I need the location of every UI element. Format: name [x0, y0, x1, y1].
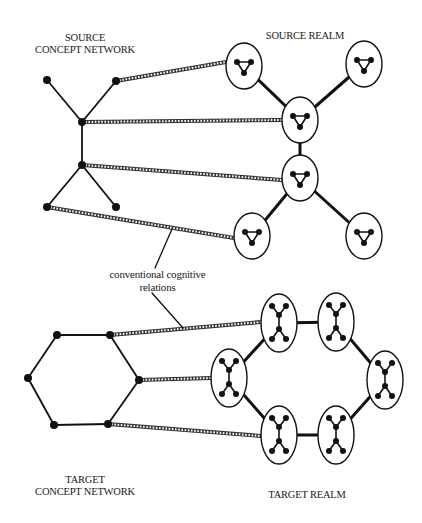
target-realm-label: TARGET REALM — [262, 489, 352, 501]
cluster-node — [354, 229, 360, 235]
cluster-node — [333, 311, 339, 317]
cognitive-relation-link — [116, 62, 226, 81]
cluster-node — [219, 391, 225, 397]
concept-node — [78, 118, 86, 126]
network-edge — [82, 81, 116, 122]
cluster-node — [290, 171, 296, 177]
cluster-node — [333, 424, 339, 430]
source-network-label-line1: SOURCE — [30, 32, 140, 44]
concept-node — [43, 76, 51, 84]
cluster-node — [326, 415, 332, 421]
entity-ellipse — [282, 97, 318, 143]
entity-ellipse — [226, 43, 262, 89]
cluster-node — [375, 360, 381, 366]
target-realm-graph — [211, 293, 403, 464]
cluster-node — [326, 335, 332, 341]
target-realm-label-text: TARGET REALM — [262, 489, 352, 501]
realm-entity — [211, 349, 247, 407]
cluster-node — [382, 383, 388, 389]
cluster-node — [219, 358, 225, 364]
cluster-node — [326, 302, 332, 308]
cluster-node — [297, 182, 303, 188]
source-concept-network — [43, 76, 120, 211]
cluster-node — [226, 367, 232, 373]
cluster-node — [276, 424, 282, 430]
source-network-label-line2: CONCEPT NETWORK — [30, 44, 140, 56]
cluster-node — [304, 171, 310, 177]
entity-ellipse — [234, 213, 270, 259]
cognitive-relation-link — [82, 165, 282, 180]
concept-node — [43, 203, 51, 211]
cluster-node — [242, 229, 248, 235]
cluster-node — [354, 57, 360, 63]
network-edge — [54, 424, 108, 425]
cluster-node — [290, 113, 296, 119]
realm-entity — [226, 43, 262, 89]
cluster-node — [375, 393, 381, 399]
cluster-node — [340, 448, 346, 454]
cluster-node — [361, 68, 367, 74]
cluster-node — [368, 57, 374, 63]
network-edge — [110, 335, 139, 380]
cluster-node — [269, 303, 275, 309]
cluster-node — [234, 59, 240, 65]
network-edge — [108, 380, 139, 424]
cluster-node — [283, 336, 289, 342]
entity-ellipse — [346, 213, 382, 259]
entity-ellipse — [282, 155, 318, 201]
diagram-canvas: SOURCE CONCEPT NETWORK SOURCE REALM conv… — [0, 0, 422, 523]
cluster-node — [283, 448, 289, 454]
cluster-node — [233, 358, 239, 364]
cluster-node — [297, 124, 303, 130]
realm-entity — [318, 406, 354, 464]
cognitive-relation-link — [82, 120, 282, 122]
realm-entity — [282, 155, 318, 201]
concept-node — [104, 420, 112, 428]
cluster-node — [233, 391, 239, 397]
concept-node — [78, 161, 86, 169]
realm-entity — [261, 406, 297, 464]
network-edge — [47, 165, 82, 207]
cluster-node — [269, 336, 275, 342]
cluster-node — [333, 325, 339, 331]
realm-entity — [261, 294, 297, 352]
cognitive-relation-link — [110, 322, 261, 335]
cluster-node — [340, 302, 346, 308]
cluster-node — [241, 70, 247, 76]
cluster-node — [249, 240, 255, 246]
realm-entity — [234, 213, 270, 259]
source-concept-network-label: SOURCE CONCEPT NETWORK — [30, 32, 140, 56]
cluster-node — [226, 381, 232, 387]
cluster-node — [361, 240, 367, 246]
diagram-svg — [0, 0, 422, 523]
cluster-node — [276, 326, 282, 332]
leader-line — [155, 229, 172, 268]
source-realm-graph — [226, 41, 382, 259]
cluster-node — [276, 312, 282, 318]
cluster-node — [368, 229, 374, 235]
cluster-node — [389, 393, 395, 399]
concept-node — [112, 77, 120, 85]
relations-label-line1: conventional cognitive — [95, 268, 220, 281]
target-network-label-line2: CONCEPT NETWORK — [30, 486, 140, 498]
cognitive-relation-link — [139, 378, 211, 380]
source-realm-label: SOURCE REALM — [260, 30, 350, 42]
cluster-node — [269, 448, 275, 454]
target-concept-network — [24, 331, 143, 429]
cluster-node — [269, 415, 275, 421]
cluster-node — [340, 335, 346, 341]
cluster-node — [304, 113, 310, 119]
concept-node — [106, 331, 114, 339]
network-edge — [47, 80, 82, 122]
cluster-node — [256, 229, 262, 235]
cluster-node — [340, 415, 346, 421]
source-realm-label-text: SOURCE REALM — [260, 30, 350, 42]
concept-node — [24, 374, 32, 382]
concept-node — [50, 421, 58, 429]
network-edge — [28, 378, 54, 425]
cluster-node — [333, 438, 339, 444]
cluster-node — [283, 303, 289, 309]
realm-entity — [318, 293, 354, 351]
entity-ellipse — [346, 41, 382, 87]
cluster-node — [248, 59, 254, 65]
